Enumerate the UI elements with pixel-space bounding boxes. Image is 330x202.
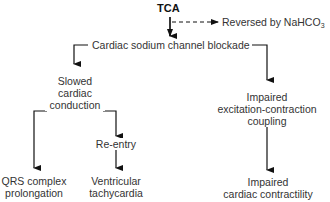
node-tca: TCA [157, 2, 180, 14]
contractility-line-1: Impaired [220, 176, 316, 188]
contractility-line-2: cardiac contractility [220, 188, 316, 200]
arrow-blockade-impaired [252, 45, 267, 80]
qrs-line-1: QRS complex [0, 175, 68, 187]
node-reentry: Re-entry [93, 138, 139, 150]
reversal-label: Reversed by NaHCO [222, 16, 321, 28]
impaired-ec-line-1: Impaired [215, 91, 319, 103]
qrs-line-2: prolongation [0, 187, 68, 199]
impaired-ec-line-3: coupling [215, 115, 319, 127]
vt-line-2: tachycardia [86, 187, 146, 199]
node-qrs-prolongation: QRS complex prolongation [0, 175, 68, 199]
node-impaired-contractility: Impaired cardiac contractility [220, 176, 316, 200]
arrow-blockade-slowed [74, 45, 88, 64]
slowed-line-2: cardiac [45, 87, 105, 99]
slowed-line-1: Slowed [45, 75, 105, 87]
vt-line-1: Ventricular [86, 175, 146, 187]
node-slowed-conduction: Slowed cardiac conduction [45, 75, 105, 111]
node-ventricular-tachycardia: Ventricular tachycardia [86, 175, 146, 199]
arrow-slowed-reentry [103, 111, 116, 136]
impaired-ec-line-2: excitation-contraction [215, 103, 319, 115]
node-impaired-ec-coupling: Impaired excitation-contraction coupling [215, 91, 319, 127]
node-sodium-channel-blockade: Cardiac sodium channel blockade [90, 39, 252, 51]
slowed-line-3: conduction [45, 99, 105, 111]
arrow-slowed-qrs [34, 111, 47, 168]
reversal-subscript: 3 [321, 22, 325, 29]
node-reversal: Reversed by NaHCO3 [222, 16, 325, 28]
